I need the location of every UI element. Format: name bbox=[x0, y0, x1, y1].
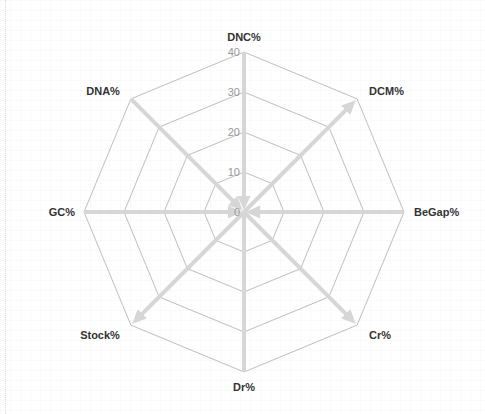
spoke-cr bbox=[244, 212, 356, 324]
axis-label-gc: GC% bbox=[49, 206, 76, 218]
tick-label: 30 bbox=[228, 86, 240, 98]
axis-label-cr: Cr% bbox=[369, 329, 391, 341]
tick-label: 0 bbox=[234, 206, 240, 218]
tick-label: 40 bbox=[228, 46, 240, 58]
arrow-spokes bbox=[84, 52, 404, 372]
axis-label-dnc: DNC% bbox=[227, 31, 261, 43]
axis-label-dr: Dr% bbox=[233, 381, 255, 393]
axis-label-dna: DNA% bbox=[86, 85, 120, 97]
tick-labels: 010203040 bbox=[228, 46, 240, 218]
axis-label-dcm: DCM% bbox=[369, 85, 404, 97]
spoke-dcm bbox=[244, 100, 356, 212]
radar-chart: 010203040 DNC%DCM%BeGap%Cr%Dr%Stock%GC%D… bbox=[0, 0, 485, 414]
spoke-begap bbox=[246, 206, 404, 219]
tick-label: 10 bbox=[228, 166, 240, 178]
tick-label: 20 bbox=[228, 126, 240, 138]
spoke-gc bbox=[84, 206, 242, 219]
axis-label-stock: Stock% bbox=[80, 329, 120, 341]
axis-label-begap: BeGap% bbox=[414, 206, 459, 218]
spoke-stock bbox=[132, 212, 244, 324]
